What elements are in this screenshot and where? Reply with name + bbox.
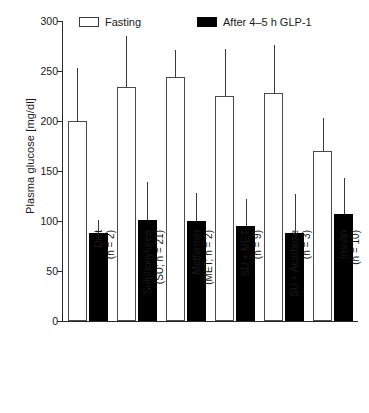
x-category-label: SU + MET(n = 9) (240, 230, 263, 326)
x-category-name: Sulphonylurea (142, 230, 154, 326)
y-tick-label-150: 150 (24, 166, 58, 176)
x-category-name: Insulin (338, 230, 350, 326)
bar-fasting (264, 93, 283, 321)
x-category-count: (n = 3) (301, 230, 313, 326)
error-bar-fasting (274, 45, 275, 93)
y-tick-mark-300 (57, 21, 62, 22)
error-bar-glp1 (246, 199, 247, 226)
x-category-name: SU + Acarbose (289, 230, 301, 326)
error-bar-fasting (175, 50, 176, 77)
y-tick-mark-50 (57, 271, 62, 272)
bar-fasting (68, 121, 87, 321)
x-category-count: (n = 9) (252, 230, 264, 326)
bar-fasting (117, 87, 136, 321)
y-tick-label-200: 200 (24, 116, 58, 126)
bar-fasting (215, 96, 234, 321)
x-category-count: (SU; n = 21) (153, 230, 165, 326)
x-category-count: (n = 10) (350, 230, 362, 326)
y-tick-label-50: 50 (24, 266, 58, 276)
y-tick-mark-150 (57, 171, 62, 172)
error-bar-glp1 (196, 193, 197, 221)
chart-figure: Plasma glucose [mg/dl] 300 250 200 150 1… (0, 0, 369, 413)
x-category-name: Metformin (191, 230, 203, 326)
x-category-label: Insulin(n = 10) (338, 230, 361, 326)
y-tick-label-0: 0 (24, 316, 58, 326)
x-category-label: SU + Acarbose(n = 3) (289, 230, 312, 326)
y-tick-mark-0 (57, 321, 62, 322)
y-tick-mark-200 (57, 121, 62, 122)
error-bar-fasting (323, 118, 324, 151)
error-bar-glp1 (295, 194, 296, 233)
y-tick-label-100: 100 (24, 216, 58, 226)
error-bar-fasting (225, 49, 226, 96)
bar-fasting (166, 77, 185, 321)
x-category-name: SU + MET (240, 230, 252, 326)
x-category-count: (n = 2) (104, 230, 116, 326)
y-tick-label-300: 300 (24, 16, 58, 26)
x-category-name: Diet (93, 230, 105, 326)
y-tick-mark-250 (57, 71, 62, 72)
error-bar-fasting (126, 36, 127, 87)
x-category-label: Metformin(MET; n = 2) (191, 230, 214, 326)
x-category-label: Sulphonylurea(SU; n = 21) (142, 230, 165, 326)
y-tick-mark-100 (57, 221, 62, 222)
x-category-count: (MET; n = 2) (202, 230, 214, 326)
y-tick-label-250: 250 (24, 66, 58, 76)
error-bar-fasting (77, 68, 78, 121)
error-bar-glp1 (147, 182, 148, 220)
x-category-label: Diet(n = 2) (93, 230, 116, 326)
error-bar-glp1 (344, 178, 345, 214)
bar-fasting (313, 151, 332, 321)
